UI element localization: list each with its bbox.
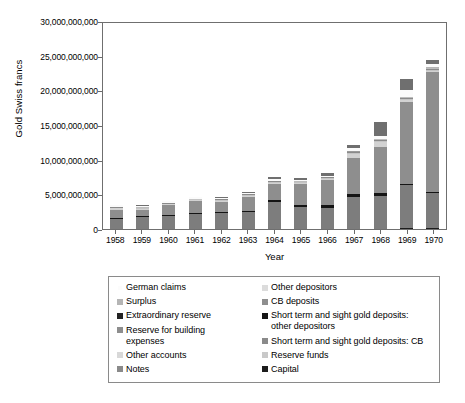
bar-segment [110,210,123,218]
x-axis-tick-label: 1964 [261,235,288,249]
bar-segment [321,180,334,206]
legend-item[interactable]: Extraordinary reserve [117,310,260,321]
legend-swatch-icon [117,285,123,291]
y-axis-tick-label: 25,000,000,000 [18,52,98,62]
bar-segment [215,213,228,229]
bar-segment [347,158,360,194]
bar-segment [321,208,334,229]
stacked-bar[interactable] [426,60,439,229]
legend-label: Short term and sight gold deposits: othe… [271,310,408,332]
x-axis-tick-label: 1969 [394,235,421,249]
bar-segment [400,102,413,184]
stacked-bar[interactable] [162,201,175,229]
bar-segment [242,197,255,211]
x-axis-tick-mark [247,230,248,234]
bar-slot [393,23,419,229]
stacked-bar[interactable] [347,145,360,229]
x-axis-tick-label: 1968 [367,235,394,249]
stacked-bar[interactable] [268,177,281,229]
bar-segment [374,147,387,193]
legend-item[interactable]: German claims [117,282,260,293]
legend-label: Other depositors [271,282,337,293]
legend-item[interactable]: Short term and sight gold deposits: othe… [262,310,439,332]
plot-area [102,22,447,230]
stacked-bar[interactable] [374,122,387,229]
bar-segment [400,228,413,229]
chart-legend: German claimsSurplusExtraordinary reserv… [108,276,440,383]
legend-item[interactable]: Capital [262,364,439,375]
bar-slot [288,23,314,229]
legend-label: Reserve for building expenses [126,325,205,347]
x-axis-tick-mark [274,230,275,234]
legend-swatch-icon [117,299,123,305]
legend-item[interactable]: Surplus [117,296,260,307]
y-axis-tick-label: 5,000,000,000 [18,190,98,200]
x-axis-tick-mark [380,230,381,234]
x-axis-tick-label: 1967 [341,235,368,249]
legend-label: Surplus [126,296,156,307]
bar-slot [182,23,208,229]
x-axis-tick-label: 1960 [155,235,182,249]
stacked-bar[interactable] [242,192,255,229]
legend-label: Extraordinary reserve [126,310,211,321]
legend-label: Short term and sight gold deposits: CB [271,336,423,347]
x-axis-tick-mark [300,230,301,234]
legend-item[interactable]: Reserve funds [262,350,439,361]
legend-swatch-icon [262,338,268,344]
legend-item[interactable]: Notes [117,364,260,375]
legend-label: Reserve funds [271,350,328,361]
stacked-bar[interactable] [400,79,413,229]
x-axis-tick-labels: 1958195919601961196219631964196519661967… [102,235,447,249]
x-axis-tick-mark [115,230,116,234]
legend-item[interactable]: Other depositors [262,282,439,293]
y-axis-tick-label: 0 [18,225,98,235]
legend-label: Notes [126,364,149,375]
legend-column-left: German claimsSurplusExtraordinary reserv… [109,282,260,382]
x-axis-tick-mark [221,230,222,234]
y-axis-tick-label: 30,000,000,000 [18,17,98,27]
bar-slot [129,23,155,229]
bar-segment [189,214,202,229]
y-axis-ticks: 05,000,000,00010,000,000,00015,000,000,0… [18,15,98,237]
stacked-bar[interactable] [189,197,202,230]
x-axis-tick-mark [168,230,169,234]
stacked-bar[interactable] [110,205,123,229]
bar-segment [400,185,413,228]
bar-segment [426,72,439,191]
legend-label: Capital [271,364,299,375]
x-axis-tick-label: 1965 [288,235,315,249]
legend-swatch-icon [117,366,123,372]
bar-segment [426,193,439,228]
bar-segment [347,197,360,229]
legend-swatch-icon [262,366,268,372]
bar-segment [268,202,281,229]
x-axis-tick-mark [327,230,328,234]
legend-item[interactable]: CB deposits [262,296,439,307]
stacked-bar[interactable] [215,197,228,229]
y-axis-tick-label: 20,000,000,000 [18,86,98,96]
x-axis-tick-label: 1966 [314,235,341,249]
bar-segment [136,217,149,229]
bar-slot [314,23,340,229]
legend-swatch-icon [262,313,268,319]
legend-label: CB deposits [271,296,319,307]
x-axis-tick-mark [141,230,142,234]
x-axis-tick-mark [433,230,434,234]
x-axis-tick-label: 1959 [129,235,156,249]
bar-segment [215,202,228,212]
bar-slot [209,23,235,229]
stacked-bar[interactable] [136,205,149,229]
bar-slot [261,23,287,229]
legend-item[interactable]: Reserve for building expenses [117,325,260,347]
legend-item[interactable]: Short term and sight gold deposits: CB [262,336,439,347]
bar-slot [367,23,393,229]
legend-label: Other accounts [126,350,186,361]
x-axis-tick-mark [354,230,355,234]
stacked-bar[interactable] [294,178,307,229]
legend-item[interactable]: Other accounts [117,350,260,361]
bar-segment [162,205,175,214]
stacked-bar[interactable] [321,173,334,229]
bar-segment [162,216,175,229]
bar-segment [136,210,149,217]
bar-segment [268,184,281,201]
